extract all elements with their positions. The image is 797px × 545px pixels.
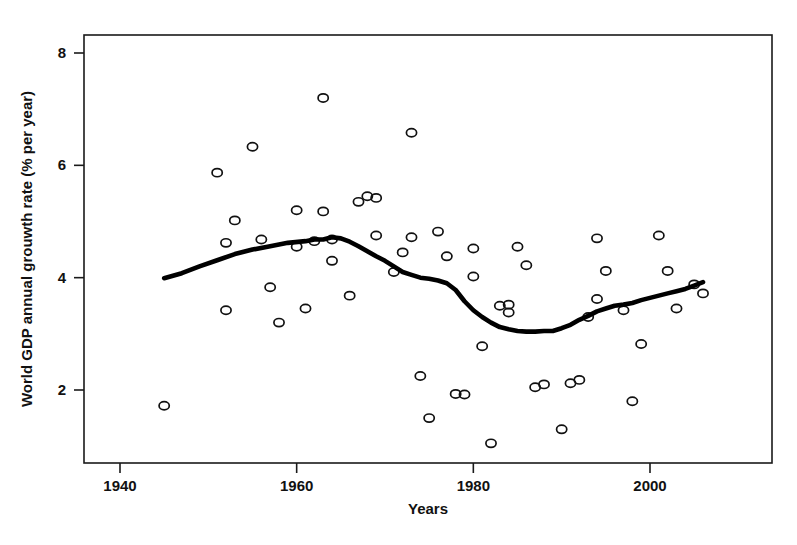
chart-figure: 2468 1940196019802000 Years World GDP an… [0, 0, 797, 545]
x-tick-label: 2000 [633, 477, 666, 494]
x-tick-label: 1940 [103, 477, 136, 494]
y-tick-label: 2 [58, 381, 66, 398]
x-tick-label: 1980 [457, 477, 490, 494]
y-tick-label: 4 [58, 269, 67, 286]
y-tick-label: 6 [58, 156, 66, 173]
x-tick-label: 1960 [280, 477, 313, 494]
scatter-plot-svg: 2468 1940196019802000 Years World GDP an… [0, 0, 797, 545]
y-tick-label: 8 [58, 44, 66, 61]
x-axis-title: Years [408, 500, 448, 517]
y-axis-title: World GDP annual grouwth rate (% per yea… [18, 91, 35, 407]
